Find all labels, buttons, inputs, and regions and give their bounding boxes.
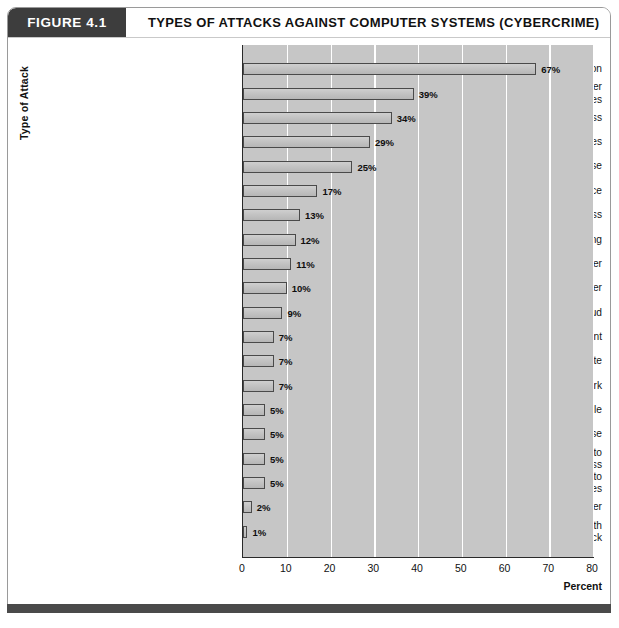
bar-value-label: 10% <box>292 283 311 294</box>
x-tick-label: 60 <box>499 562 511 574</box>
bar-value-label: 7% <box>279 332 293 343</box>
bar-row: 7% <box>243 331 595 343</box>
x-tick-label: 30 <box>367 562 379 574</box>
bar <box>243 501 252 513</box>
x-axis-title: Percent <box>563 580 602 592</box>
figure-title: TYPES OF ATTACKS AGAINST COMPUTER SYSTEM… <box>126 8 610 37</box>
bar <box>243 209 300 221</box>
bar-row: 25% <box>243 161 595 173</box>
bar-value-label: 7% <box>279 380 293 391</box>
bar-row: 10% <box>243 282 595 294</box>
bar-row: 5% <box>243 477 595 489</box>
bar-value-label: 17% <box>322 185 341 196</box>
bar-value-label: 2% <box>257 502 271 513</box>
bar-row: 13% <box>243 209 595 221</box>
bar-value-label: 5% <box>270 478 284 489</box>
bar-row: 34% <box>243 112 595 124</box>
bar-row: 5% <box>243 404 595 416</box>
bar-value-label: 25% <box>357 161 376 172</box>
bar-row: 11% <box>243 258 595 270</box>
bar <box>243 428 265 440</box>
y-axis-title: Type of Attack <box>18 43 30 163</box>
figure-footer-bar <box>7 604 611 613</box>
bar <box>243 453 265 465</box>
bar <box>243 526 247 538</box>
bar <box>243 136 370 148</box>
bar <box>243 161 352 173</box>
bar <box>243 234 296 246</box>
bar-value-label: 34% <box>397 112 416 123</box>
x-tick-label: 70 <box>542 562 554 574</box>
bar-row: 7% <box>243 355 595 367</box>
bar-row: 1% <box>243 526 595 538</box>
x-tick-label: 10 <box>280 562 292 574</box>
bar <box>243 258 291 270</box>
bar-row: 29% <box>243 136 595 148</box>
bar <box>243 88 414 100</box>
x-tick-label: 50 <box>455 562 467 574</box>
bar-row: 5% <box>243 428 595 440</box>
bar <box>243 380 274 392</box>
x-tick-label: 0 <box>239 562 245 574</box>
bar-row: 67% <box>243 63 595 75</box>
bar-value-label: 1% <box>252 526 266 537</box>
bar-row: 2% <box>243 501 595 513</box>
bar-row: 39% <box>243 88 595 100</box>
bar <box>243 282 287 294</box>
figure-number-badge: FIGURE 4.1 <box>8 8 126 37</box>
x-tick-label: 20 <box>324 562 336 574</box>
bar-value-label: 7% <box>279 356 293 367</box>
figure-header: FIGURE 4.1 TYPES OF ATTACKS AGAINST COMP… <box>8 8 610 38</box>
bar <box>243 63 536 75</box>
bar-value-label: 9% <box>287 307 301 318</box>
bar <box>243 112 392 124</box>
figure-card: FIGURE 4.1 TYPES OF ATTACKS AGAINST COMP… <box>7 7 611 613</box>
bar-value-label: 5% <box>270 453 284 464</box>
bar <box>243 307 282 319</box>
bar <box>243 404 265 416</box>
bar <box>243 477 265 489</box>
bar-value-label: 11% <box>296 258 315 269</box>
bar-value-label: 39% <box>419 88 438 99</box>
bar <box>243 185 317 197</box>
chart-body: Type of Attack Malware infectionBeing fr… <box>8 39 610 612</box>
bar <box>243 331 274 343</box>
bar-row: 5% <box>243 453 595 465</box>
bar-row: 9% <box>243 307 595 319</box>
bar-value-label: 12% <box>301 234 320 245</box>
bar-value-label: 5% <box>270 405 284 416</box>
bar-value-label: 67% <box>541 64 560 75</box>
bar <box>243 355 274 367</box>
bar-row: 17% <box>243 185 595 197</box>
bar-value-label: 13% <box>305 210 324 221</box>
x-tick-label: 40 <box>411 562 423 574</box>
bar-row: 7% <box>243 380 595 392</box>
x-tick-label: 80 <box>586 562 598 574</box>
plot-area: 67%39%34%29%25%17%13%12%11%10%9%7%7%7%5%… <box>242 45 594 558</box>
bar-value-label: 29% <box>375 137 394 148</box>
bar-value-label: 5% <box>270 429 284 440</box>
bar-row: 12% <box>243 234 595 246</box>
